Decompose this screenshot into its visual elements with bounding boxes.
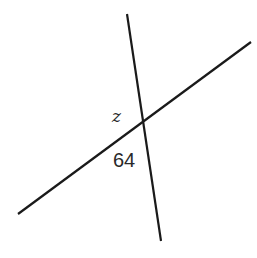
angle-label-64: 64: [113, 149, 135, 171]
intersecting-lines-diagram: z 64: [0, 0, 257, 258]
angle-label-z: z: [111, 106, 122, 126]
steep-line: [127, 14, 161, 241]
